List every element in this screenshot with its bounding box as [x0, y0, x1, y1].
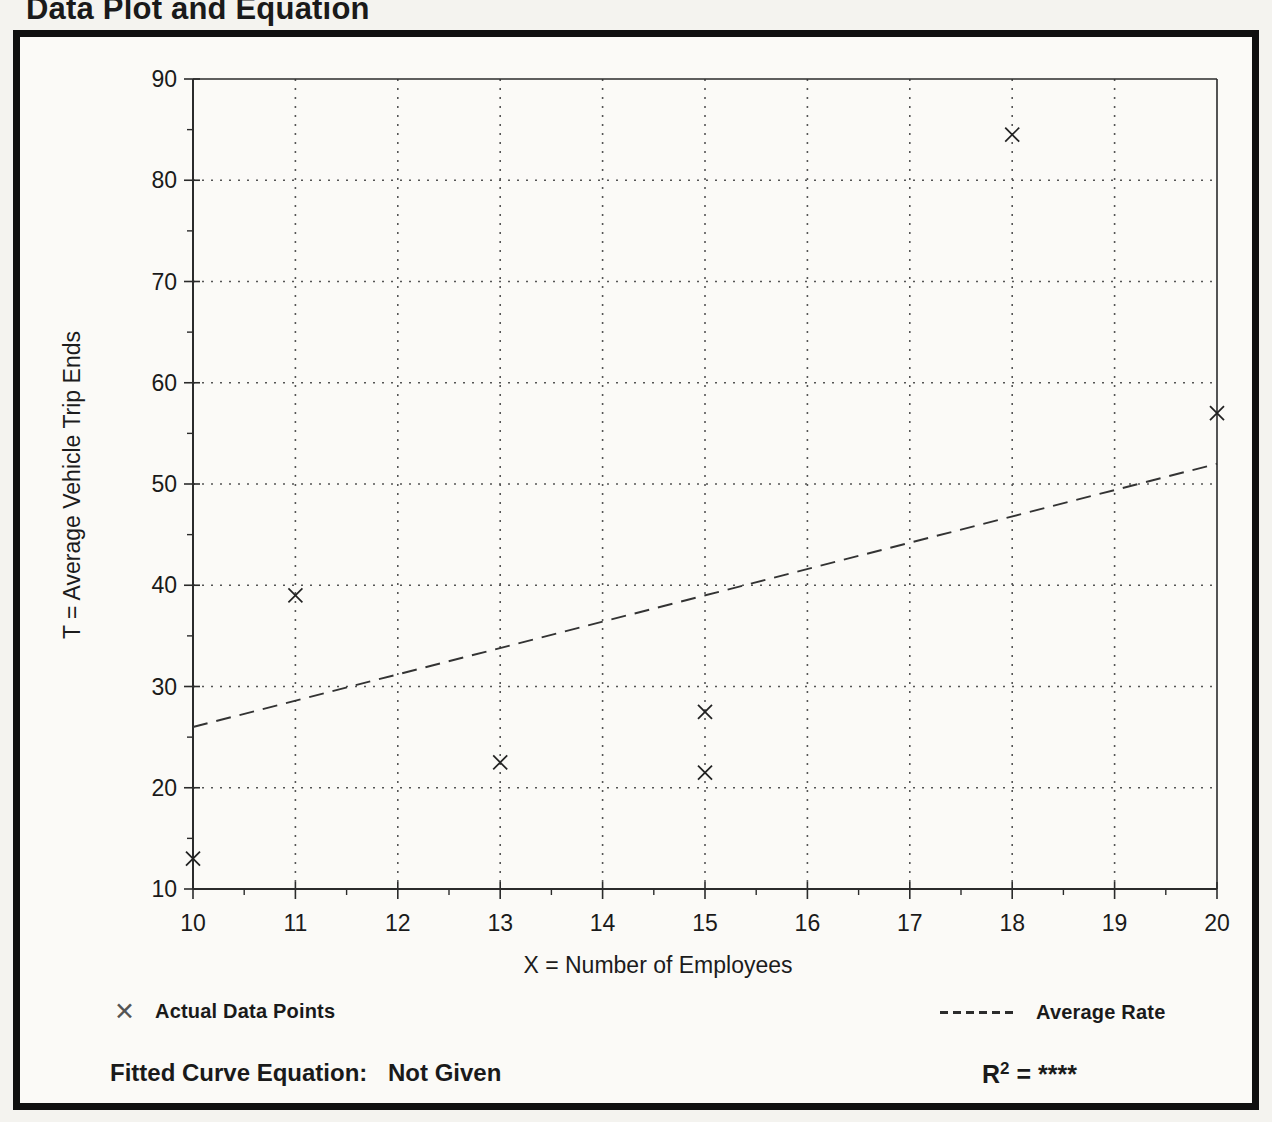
fitted-curve-equation-value: Not Given	[388, 1059, 501, 1086]
r-squared-base: R	[982, 1060, 1000, 1088]
fitted-curve-equation-label: Fitted Curve Equation:	[110, 1059, 367, 1086]
r-squared-exponent: 2	[1000, 1059, 1009, 1078]
x-tick-label: 17	[897, 910, 923, 936]
x-tick-label: 16	[795, 910, 821, 936]
x-tick-label: 19	[1102, 910, 1128, 936]
x-tick-label: 13	[487, 910, 513, 936]
dashed-line-icon	[940, 1011, 1014, 1014]
x-tick-label: 14	[590, 910, 616, 936]
scatter-plot: 1011121314151617181920102030405060708090	[20, 37, 1252, 1103]
r-squared-value: R2 = ****	[982, 1059, 1077, 1089]
x-tick-label: 10	[180, 910, 206, 936]
r-squared-rest: = ****	[1016, 1060, 1076, 1088]
x-tick-label: 12	[385, 910, 411, 936]
y-tick-label: 70	[151, 269, 177, 295]
y-tick-label: 30	[151, 674, 177, 700]
chart-frame: 1011121314151617181920102030405060708090…	[13, 30, 1259, 1110]
y-axis-label: T = Average Vehicle Trip Ends	[59, 331, 86, 639]
legend-actual-data: ✕ Actual Data Points	[114, 999, 335, 1024]
y-tick-label: 10	[151, 876, 177, 902]
x-axis-label: X = Number of Employees	[523, 952, 792, 979]
x-tick-label: 11	[283, 910, 307, 936]
legend-average-rate-label: Average Rate	[1036, 1001, 1166, 1024]
y-tick-label: 20	[151, 775, 177, 801]
y-tick-label: 90	[151, 66, 177, 92]
legend-average-rate: Average Rate	[940, 1001, 1166, 1024]
report-page: Data Plot and Equation 10111213141516171…	[0, 0, 1272, 1122]
legend-actual-data-label: Actual Data Points	[155, 1000, 335, 1023]
x-tick-label: 18	[999, 910, 1025, 936]
x-tick-label: 20	[1204, 910, 1230, 936]
fitted-curve-equation: Fitted Curve Equation: Not Given	[110, 1059, 501, 1087]
y-tick-label: 60	[151, 370, 177, 396]
y-tick-label: 40	[151, 572, 177, 598]
x-tick-label: 15	[692, 910, 718, 936]
y-tick-label: 50	[151, 471, 177, 497]
page-title: Data Plot and Equation	[26, 0, 370, 27]
x-marker-icon: ✕	[114, 999, 135, 1024]
y-tick-label: 80	[151, 167, 177, 193]
